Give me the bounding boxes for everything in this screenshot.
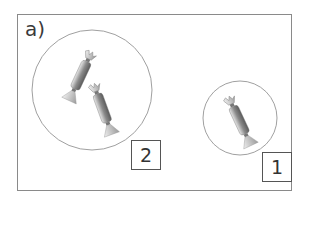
group-number-box-1: 1 bbox=[262, 152, 292, 182]
candy-icon bbox=[62, 48, 99, 104]
candy-icon bbox=[86, 81, 120, 137]
candy-icon bbox=[221, 93, 258, 149]
group-number-box-2: 2 bbox=[131, 140, 161, 170]
